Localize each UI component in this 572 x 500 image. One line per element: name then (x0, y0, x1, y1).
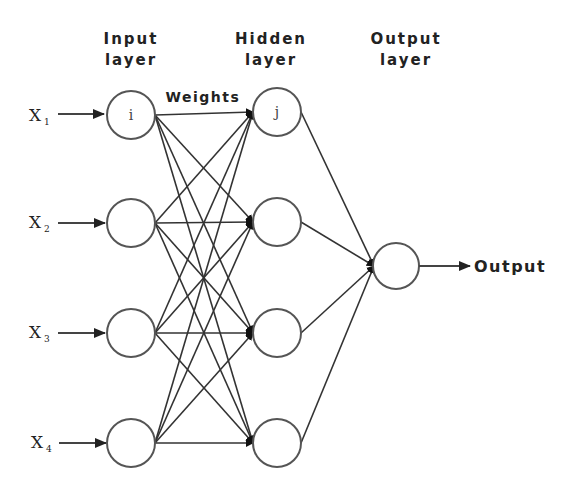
hidden-node-2 (253, 198, 301, 246)
input-layer-title: Input layer (104, 30, 159, 69)
hidden-layer-title-line2: layer (245, 51, 297, 69)
input-2: X 2 (29, 212, 105, 234)
weight-edge-1-1 (155, 112, 253, 115)
input-3: X 3 (29, 322, 105, 344)
input-4-symbol: X (31, 432, 44, 452)
output-node (373, 243, 419, 289)
input-node-index-label: i (129, 107, 134, 123)
input-3-subscript: 3 (44, 334, 50, 344)
output-edge-3 (301, 266, 374, 333)
neural-network-diagram: Input layer Hidden layer Output layer We… (0, 0, 572, 500)
output-edge-4 (301, 266, 374, 443)
input-node-2 (107, 199, 155, 247)
input-4: X 4 (31, 432, 106, 454)
input-4-subscript: 4 (46, 444, 52, 454)
hidden-layer-nodes: j (253, 88, 301, 467)
input-layer-title-line1: Input (104, 30, 159, 48)
hidden-node-4 (253, 419, 301, 467)
output-layer-title: Output layer (370, 30, 441, 69)
weights-label: Weights (166, 89, 241, 105)
output-edge-1 (301, 112, 374, 266)
input-node-3 (107, 309, 155, 357)
input-1: X 1 (29, 105, 104, 127)
input-1-subscript: 1 (44, 117, 50, 127)
output-layer-title-line2: layer (380, 51, 432, 69)
input-1-symbol: X (29, 105, 42, 125)
input-layer-nodes: i (107, 91, 155, 467)
hidden-output-edges (301, 112, 374, 443)
hidden-layer-title-line1: Hidden (235, 30, 307, 48)
output-label: Output (474, 257, 546, 276)
input-hidden-edges (155, 112, 253, 443)
hidden-layer-title: Hidden layer (235, 30, 307, 69)
input-2-subscript: 2 (44, 224, 50, 234)
input-node-4 (107, 419, 155, 467)
input-2-symbol: X (29, 212, 42, 232)
output-layer-title-line1: Output (370, 30, 441, 48)
input-layer-title-line2: layer (105, 51, 157, 69)
hidden-node-3 (253, 309, 301, 357)
input-3-symbol: X (29, 322, 42, 342)
